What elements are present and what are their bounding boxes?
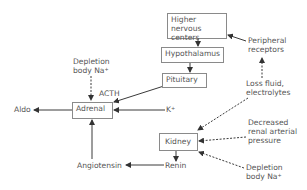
node-kidney: Kidney: [159, 133, 198, 151]
label-loss-fluid-line1: Loss fluid,: [246, 79, 290, 88]
label-peripheral-line1: Peripheral: [248, 36, 286, 45]
label-angiotensin: Angiotensin: [77, 161, 122, 170]
node-higher-line2: centers: [171, 33, 223, 42]
label-depletion-top-line1: Depletion: [73, 57, 110, 66]
label-k-plus: K+: [166, 105, 175, 114]
node-pituitary-label: Pituitary: [166, 75, 198, 84]
label-peripheral-line2: receptors: [248, 45, 286, 54]
node-higher-nervous-centers: Higher nervous centers: [167, 13, 227, 39]
label-depletion-bottom-line1: Depletion: [246, 163, 283, 172]
label-depletion-top: Depletion body Na+: [73, 57, 110, 75]
node-adrenal-label: Adrenal: [76, 104, 105, 113]
label-decreased-line3: pressure: [248, 136, 297, 145]
label-loss-fluid: Loss fluid, electrolytes: [246, 79, 290, 97]
node-kidney-label: Kidney: [165, 137, 191, 146]
label-depletion-top-sup: +: [105, 66, 109, 72]
node-hypothalamus-label: Hypothalamus: [165, 49, 220, 58]
diagram-canvas: Higher nervous centers Hypothalamus Pitu…: [0, 0, 307, 190]
label-depletion-bottom: Depletion body Na+: [246, 163, 283, 181]
label-k-sup: +: [171, 105, 175, 111]
label-depletion-top-line2: body Na+: [73, 66, 110, 75]
node-hypothalamus: Hypothalamus: [161, 47, 224, 63]
label-acth: ACTH: [99, 89, 120, 98]
label-depletion-top-text: body Na: [73, 66, 105, 75]
node-pituitary: Pituitary: [162, 73, 207, 88]
label-loss-fluid-line2: electrolytes: [246, 88, 290, 97]
label-decreased-line1: Decreased: [248, 118, 297, 127]
node-adrenal: Adrenal: [72, 102, 113, 119]
label-depletion-bottom-line2: body Na+: [246, 172, 283, 181]
label-decreased-pressure: Decreased renal arterial pressure: [248, 118, 297, 145]
label-peripheral-receptors: Peripheral receptors: [248, 36, 286, 54]
label-depletion-bottom-text: body Na: [246, 172, 278, 181]
label-depletion-bottom-sup: +: [278, 172, 282, 178]
node-higher-line1: Higher nervous: [171, 15, 223, 33]
label-renin: Renin: [165, 161, 186, 170]
label-decreased-line2: renal arterial: [248, 127, 297, 136]
label-aldo: Aldo: [14, 105, 31, 114]
